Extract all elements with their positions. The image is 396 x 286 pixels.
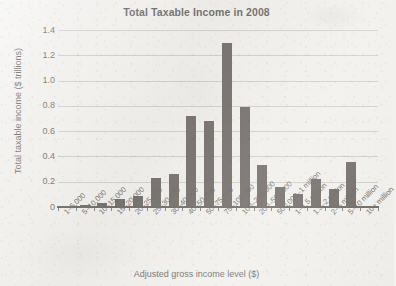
y-tick-label: 1.4 <box>42 25 55 36</box>
chart-title: Total Taxable Income in 2008 <box>0 6 393 18</box>
y-tick-label: 0 <box>50 202 55 213</box>
y-tick-label: 0.6 <box>42 126 55 137</box>
y-tick-label: 0.2 <box>42 176 55 187</box>
bars-layer <box>58 30 378 207</box>
y-tick-label: 1.2 <box>42 50 55 61</box>
y-tick-label: 1.0 <box>42 75 55 86</box>
x-axis-title: Adjusted gross income level ($) <box>0 269 393 279</box>
bar[interactable] <box>222 43 232 207</box>
x-axis-line <box>57 206 379 208</box>
x-axis-tick-labels: 1–5,0005–10,00010–15,00015–20,00020–25,0… <box>58 210 388 270</box>
y-tick-label: 0.4 <box>42 151 55 162</box>
y-axis-tick-labels: 00.20.40.60.81.01.21.4 <box>22 24 55 213</box>
y-tick-label: 0.8 <box>42 100 55 111</box>
